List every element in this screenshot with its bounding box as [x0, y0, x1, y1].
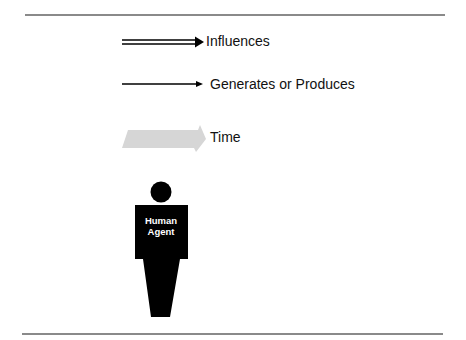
human-agent-figure: Human Agent	[135, 182, 188, 318]
figure-label-line1: Human	[145, 215, 177, 226]
legend-label-generates: Generates or Produces	[210, 76, 355, 92]
time-arrow-icon	[122, 125, 206, 152]
legend-graphics: Human Agent	[0, 0, 466, 340]
head-shape	[151, 182, 172, 203]
legend-label-time: Time	[210, 129, 241, 145]
influences-double-arrow-icon	[122, 37, 204, 48]
generates-arrow-icon	[122, 81, 203, 87]
figure-label-line2: Agent	[148, 226, 176, 237]
legend-label-influences: Influences	[206, 33, 270, 49]
